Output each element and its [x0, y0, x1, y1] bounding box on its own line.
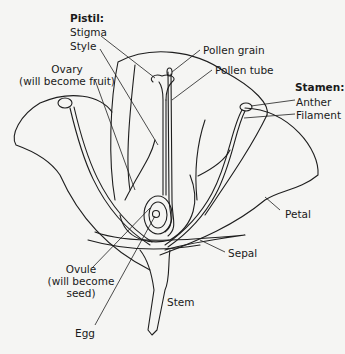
- sepal-leader: [200, 240, 225, 252]
- label-ovary: Ovary (will become fruit): [18, 63, 116, 87]
- petal-leader: [265, 197, 280, 210]
- pollen-tube-leader: [172, 70, 212, 100]
- pistil-heading: Pistil:: [70, 12, 104, 24]
- label-ovule: Ovule (will become seed): [46, 263, 116, 299]
- label-sepal: Sepal: [228, 247, 257, 259]
- egg: [153, 211, 160, 218]
- label-petal: Petal: [285, 208, 311, 220]
- ovary: [120, 140, 195, 242]
- filament-leader: [244, 114, 295, 118]
- ovule-line1: Ovule: [46, 263, 116, 275]
- label-egg: Egg: [75, 327, 95, 339]
- label-stigma: Stigma: [70, 26, 107, 38]
- ovary-line2: (will become fruit): [18, 75, 116, 87]
- label-anther: Anther: [296, 96, 331, 108]
- stamen-heading: Stamen:: [295, 81, 344, 93]
- label-style: Style: [70, 40, 96, 52]
- ovule-line2: (will become: [46, 275, 116, 287]
- label-pollen-tube: Pollen tube: [215, 64, 274, 76]
- ovary-line1: Ovary: [18, 63, 116, 75]
- stem: [140, 250, 170, 335]
- style: [159, 82, 163, 195]
- label-stem: Stem: [167, 296, 194, 308]
- right-petal: [160, 108, 318, 255]
- left-anther: [58, 98, 72, 108]
- label-pollen-grain: Pollen grain: [203, 44, 265, 56]
- label-filament: Filament: [296, 109, 341, 121]
- ovule-line3: seed): [46, 287, 116, 299]
- anther-leader: [251, 100, 295, 106]
